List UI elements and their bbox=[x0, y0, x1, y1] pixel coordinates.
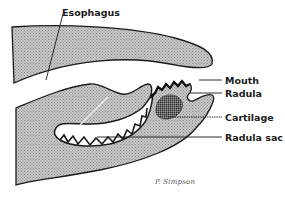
artist-signature: P. Simpson bbox=[155, 178, 195, 186]
label-cartilage: Cartilage bbox=[225, 113, 274, 123]
label-esophagus: Esophagus bbox=[62, 8, 120, 18]
diagram-drawing bbox=[0, 0, 285, 199]
upper-tissue bbox=[12, 26, 212, 83]
label-radula-sac: Radula sac bbox=[225, 133, 283, 143]
label-radula: Radula bbox=[225, 89, 262, 99]
radula-diagram: Esophagus Mouth Radula Cartilage Radula … bbox=[0, 0, 285, 199]
label-mouth: Mouth bbox=[225, 76, 259, 86]
